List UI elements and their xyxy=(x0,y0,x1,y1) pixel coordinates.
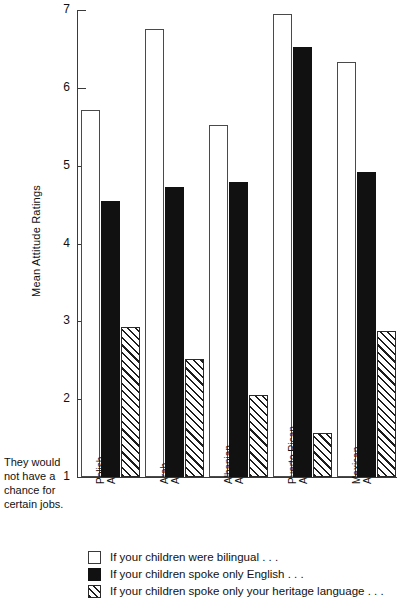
legend-item: If your children spoke only English . . … xyxy=(88,566,398,583)
legend-item: If your children were bilingual . . . xyxy=(88,549,398,566)
bar xyxy=(313,433,332,477)
category-label-line: Americans xyxy=(106,424,117,484)
bar-group xyxy=(81,10,145,477)
legend-label: If your children were bilingual . . . xyxy=(110,551,278,564)
category-label-line: Americans xyxy=(298,424,309,484)
bar xyxy=(377,331,396,477)
y-tick-label: 2 xyxy=(46,392,70,404)
legend-swatch xyxy=(88,551,101,564)
y-tick-label: 3 xyxy=(46,314,70,326)
baseline-annotation: They would not have a chance for certain… xyxy=(4,455,76,511)
bar-group xyxy=(337,10,401,477)
category-label: MexicanAmericans xyxy=(351,424,373,484)
bar-group xyxy=(145,10,209,477)
category-label-line: Mexican xyxy=(351,424,362,484)
category-label-line: Puerto Rican xyxy=(287,424,298,484)
plot-area xyxy=(78,10,397,477)
bar xyxy=(145,29,164,477)
legend-label: If your children spoke only your heritag… xyxy=(110,585,384,598)
legend-item: If your children spoke only your heritag… xyxy=(88,583,398,600)
bar-group xyxy=(273,10,337,477)
bar xyxy=(81,110,100,477)
bar xyxy=(273,14,292,477)
category-label: ArabAmericans xyxy=(159,424,181,484)
category-label-line: Albanian xyxy=(223,424,234,484)
y-axis-title: Mean Attitude Ratings xyxy=(30,161,42,321)
bar xyxy=(249,395,268,478)
y-tick-mark xyxy=(78,477,86,478)
y-tick-label: 6 xyxy=(46,81,70,93)
y-tick-label: 4 xyxy=(46,237,70,249)
y-tick-label: 5 xyxy=(46,159,70,171)
category-label-line: Americans xyxy=(234,424,245,484)
bar xyxy=(185,359,204,477)
y-tick-label: 7 xyxy=(46,3,70,15)
category-label-line: Polish xyxy=(95,424,106,484)
category-label-line: Arab xyxy=(159,424,170,484)
bar xyxy=(337,62,356,477)
category-label-line: Americans xyxy=(170,424,181,484)
legend-swatch xyxy=(88,585,101,598)
category-label: AlbanianAmericans xyxy=(223,424,245,484)
legend-label: If your children spoke only English . . … xyxy=(110,568,304,581)
category-label: Puerto RicanAmericans xyxy=(287,424,309,484)
category-label: PolishAmericans xyxy=(95,424,117,484)
chart-legend: If your children were bilingual . . .If … xyxy=(88,549,398,600)
category-label-line: Americans xyxy=(362,424,373,484)
bar xyxy=(121,327,140,477)
bar-chart: 1234567 Mean Attitude Ratings They would… xyxy=(0,0,404,607)
legend-swatch xyxy=(88,568,101,581)
bar xyxy=(293,47,312,477)
bar-group xyxy=(209,10,273,477)
